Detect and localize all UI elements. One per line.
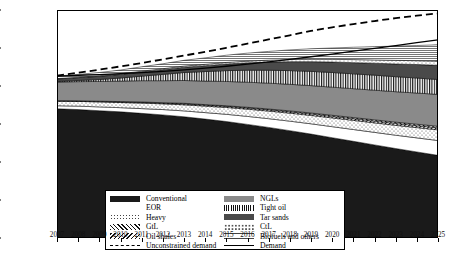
x-axis-tick-mark — [290, 238, 291, 242]
y-axis-tick-mark — [0, 162, 1, 163]
x-axis-tick-mark — [78, 238, 79, 242]
legend-label-tightoil: Tight oil — [260, 203, 344, 212]
legend-swatch-tightoil — [224, 205, 254, 211]
x-axis-tick-mark — [205, 238, 206, 242]
x-axis-tick-mark — [121, 238, 122, 242]
legend-swatch-eor — [110, 205, 140, 211]
legend-swatch-conventional — [110, 196, 140, 202]
x-axis-tick-mark — [184, 238, 185, 242]
legend-label-heavy: Heavy — [146, 213, 224, 222]
y-axis-tick-mark — [0, 86, 1, 87]
legend-label-eor: EOR — [146, 203, 224, 212]
legend-label-ngls: NGLs — [260, 194, 344, 203]
legend-swatch-line-dashed — [110, 245, 140, 246]
legend-label-conventional: Conventional — [146, 194, 224, 203]
x-axis-tick-mark — [163, 238, 164, 242]
x-axis-tick-mark — [396, 238, 397, 242]
plot-area: ConventionalNGLsEORTight oilHeavyTar san… — [57, 10, 438, 238]
legend-label-line-dashed: Unconstrained demand — [146, 241, 224, 250]
legend-swatch-heavy — [110, 214, 140, 220]
legend-swatch-gtl — [110, 224, 140, 230]
chart-figure: Production (million bbl/day) 02040608010… — [0, 0, 454, 272]
x-axis-tick-mark — [332, 238, 333, 242]
x-axis-tick-mark — [375, 238, 376, 242]
y-axis-tick-mark — [0, 10, 1, 11]
legend-swatch-line-solid — [224, 245, 254, 246]
x-axis-tick-mark — [269, 238, 270, 242]
legend-swatch-tarsands — [224, 214, 254, 220]
x-axis-tick-mark — [417, 238, 418, 242]
x-axis-tick-mark — [311, 238, 312, 242]
x-axis-tick-mark — [438, 238, 439, 242]
legend-label-tarsands: Tar sands — [260, 213, 344, 222]
x-axis-tick-mark — [248, 238, 249, 242]
y-axis-tick-mark — [0, 238, 1, 239]
legend-swatch-ngls — [224, 196, 254, 202]
x-axis-tick-mark — [99, 238, 100, 242]
y-axis-tick-mark — [0, 200, 1, 201]
legend-swatch-ctl — [224, 224, 254, 230]
x-axis-tick-mark — [142, 238, 143, 242]
y-axis-tick-mark — [0, 124, 1, 125]
x-axis-tick-mark — [226, 238, 227, 242]
x-axis-tick-mark — [353, 238, 354, 242]
legend-label-line-solid: Demand — [260, 241, 344, 250]
x-axis-tick-mark — [57, 238, 58, 242]
y-axis-tick-mark — [0, 48, 1, 49]
